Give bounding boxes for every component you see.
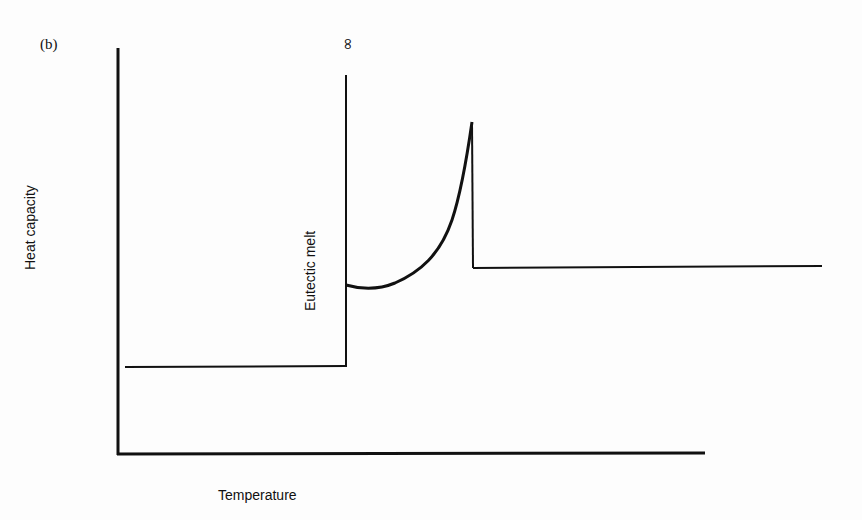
eutectic-melt-label: Eutectic melt — [302, 231, 318, 311]
diagram-canvas — [0, 0, 862, 520]
baseline-solid — [125, 366, 347, 367]
liquidus-drop — [472, 122, 473, 268]
liquid-level — [473, 266, 822, 268]
panel-label: (b) — [40, 36, 58, 53]
melting-curve — [346, 122, 472, 288]
infinity-symbol: ∞ — [340, 37, 356, 50]
y-axis-label: Heat capacity — [22, 185, 38, 270]
x-axis-label: Temperature — [218, 487, 297, 503]
x-axis — [117, 453, 705, 454]
